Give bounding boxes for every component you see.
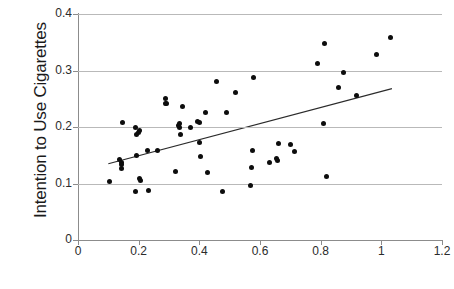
gridline-y [78, 14, 442, 15]
x-tick-mark [442, 240, 443, 245]
scatter-plot-figure: Intention to Use Cigarettes 00.10.20.30.… [0, 0, 454, 289]
x-tick-label: 0.4 [179, 244, 219, 258]
x-tick-label: 0.2 [119, 244, 159, 258]
data-point [267, 160, 272, 165]
x-tick-label: 0.8 [301, 244, 341, 258]
data-point [275, 158, 280, 163]
data-point [145, 148, 150, 153]
x-tick-mark [199, 240, 200, 245]
data-point [324, 174, 329, 179]
data-point [250, 148, 255, 153]
x-axis-title [78, 272, 442, 289]
x-tick-label: 1 [361, 244, 401, 258]
y-tick-mark [73, 127, 78, 128]
data-point [354, 93, 359, 98]
x-tick-label: 0 [58, 244, 98, 258]
y-tick-label: 0.2 [48, 119, 72, 133]
y-tick-label: 0.4 [48, 6, 72, 20]
plot-area [78, 14, 442, 240]
y-tick-mark [73, 184, 78, 185]
data-point [197, 120, 202, 125]
data-point [321, 121, 326, 126]
x-tick-mark [260, 240, 261, 245]
gridline-y [78, 184, 442, 185]
data-point [336, 85, 341, 90]
data-point [180, 104, 185, 109]
x-tick-label: 1.2 [422, 244, 454, 258]
data-point [203, 110, 208, 115]
x-tick-mark [321, 240, 322, 245]
data-point [173, 169, 178, 174]
data-point [188, 125, 193, 130]
x-tick-mark [139, 240, 140, 245]
data-point [322, 41, 327, 46]
y-tick-mark [73, 14, 78, 15]
x-tick-label: 0.6 [240, 244, 280, 258]
data-point [178, 132, 183, 137]
gridline-y [78, 71, 442, 72]
x-tick-mark [78, 240, 79, 245]
y-tick-mark [73, 71, 78, 72]
data-point [138, 178, 143, 183]
data-point [233, 90, 238, 95]
data-point [133, 189, 138, 194]
y-tick-label: 0.1 [48, 176, 72, 190]
x-tick-mark [381, 240, 382, 245]
data-point [288, 142, 293, 147]
y-tick-label: 0.3 [48, 63, 72, 77]
